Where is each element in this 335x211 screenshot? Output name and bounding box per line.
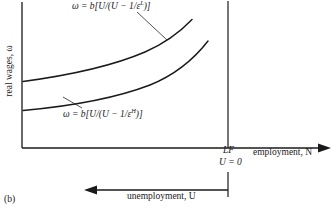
equation-high-elasticity-body: ω = b[U/(U − 1/ε xyxy=(63,109,131,119)
wage-curve-low-elasticity-path xyxy=(23,20,192,82)
equation-high-elasticity-tail: )] xyxy=(136,109,143,119)
economics-figure-panel-b: ω = b[U/(U − 1/εL)] ω = b[U/(U − 1/εH)] … xyxy=(0,0,335,211)
y-axis-label: real wages, ω xyxy=(5,33,15,109)
figure-drawing-canvas xyxy=(0,0,335,211)
unemployment-arrowhead-icon xyxy=(84,185,97,194)
x-axis-label: employment, N xyxy=(253,148,312,158)
leader-line-low-elasticity xyxy=(137,12,167,40)
leader-line-high-elasticity xyxy=(63,97,82,108)
equation-label-low-elasticity: ω = b[U/(U − 1/εL)] xyxy=(72,2,151,12)
labour-force-marker-label: LF xyxy=(223,146,234,156)
unemployment-axis-label: unemployment, U xyxy=(127,192,196,202)
equation-label-high-elasticity: ω = b[U/(U − 1/εH)] xyxy=(63,110,143,120)
x-axis-arrowhead-icon xyxy=(318,144,331,153)
equation-low-elasticity-tail: )] xyxy=(144,1,151,11)
wage-curve-high-elasticity-path xyxy=(23,41,208,111)
zero-unemployment-marker-label: U = 0 xyxy=(219,158,242,168)
equation-low-elasticity-body: ω = b[U/(U − 1/ε xyxy=(72,1,140,11)
panel-caption: (b) xyxy=(4,195,15,205)
